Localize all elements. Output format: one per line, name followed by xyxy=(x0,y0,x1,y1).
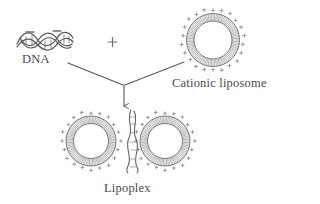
lipid-tail xyxy=(162,158,163,165)
lipid-tail xyxy=(221,57,224,64)
plus-charge-icon xyxy=(98,167,101,170)
plus-charge-icon xyxy=(212,9,215,12)
plus-charge-icon xyxy=(117,131,120,134)
lipid-tail xyxy=(92,158,93,165)
plus-charge-icon xyxy=(180,43,183,46)
plus-charge-icon xyxy=(182,34,185,37)
plus-charge-icon xyxy=(90,112,93,115)
lipid-tail xyxy=(221,16,224,23)
lipid-tail xyxy=(163,116,164,123)
lipid-tail xyxy=(215,14,216,21)
lipid-tail xyxy=(166,116,167,123)
plus-charge-icon xyxy=(164,169,167,172)
reaction-arrows xyxy=(68,62,184,106)
lipid-tail xyxy=(68,131,75,134)
plus-charge-icon xyxy=(155,166,158,169)
lipid-tail xyxy=(108,143,115,144)
lipid-tail xyxy=(162,116,163,123)
plus-charge-icon xyxy=(140,157,143,160)
plus-charge-icon xyxy=(135,130,138,133)
plus-charge-icon xyxy=(90,169,93,172)
plus-charge-icon xyxy=(172,112,175,115)
lipid-tail xyxy=(81,118,84,125)
lipid-tail xyxy=(189,48,196,51)
plus-charge-icon xyxy=(119,140,122,143)
lipid-tail xyxy=(230,28,237,31)
plus-charge-icon xyxy=(66,157,69,160)
lipid-tail xyxy=(201,57,204,64)
lipid-tail xyxy=(107,148,114,151)
plus-charge-icon xyxy=(189,58,192,61)
lipid-tail xyxy=(142,148,149,151)
lipid-tail xyxy=(107,131,114,134)
plus-charge-icon xyxy=(203,8,206,11)
lipid-tail xyxy=(208,59,209,66)
plus-charge-icon xyxy=(164,112,167,115)
lipid-tail xyxy=(140,143,147,144)
plus-charge-icon xyxy=(181,164,184,167)
plus-charge-icon xyxy=(81,166,84,169)
plus-charge-icon xyxy=(147,163,150,166)
plus-charge-icon xyxy=(241,43,244,46)
plus-charge-icon xyxy=(243,34,246,37)
lipoplex-liposome-left xyxy=(61,111,123,172)
lipid-tail xyxy=(93,158,94,165)
lipid-tail xyxy=(163,158,164,165)
plus-charge-icon xyxy=(113,157,116,160)
lipid-tail xyxy=(232,42,239,43)
lipid-tail xyxy=(217,14,218,21)
lipid-tail xyxy=(92,116,93,123)
lipid-tail xyxy=(142,131,149,134)
plus-charge-icon xyxy=(186,123,189,126)
lipid-tail xyxy=(166,158,167,165)
lipid-tail xyxy=(181,148,188,151)
plus-charge-icon xyxy=(61,130,64,133)
plus-charge-icon xyxy=(193,140,196,143)
plus-charge-icon xyxy=(183,26,186,29)
plus-charge-icon xyxy=(98,112,101,115)
liposome-inner-leaflet xyxy=(194,21,232,59)
plus-charge-icon xyxy=(203,68,206,71)
lipid-tail xyxy=(208,14,209,21)
lipid-tail xyxy=(155,157,158,164)
liposome-positive-charges xyxy=(135,111,197,172)
bound-dna-strand xyxy=(127,110,138,173)
lipoplex-liposome-right xyxy=(135,111,197,172)
lipid-tail xyxy=(172,118,175,125)
plus-charge-icon xyxy=(212,68,215,71)
lipid-tail xyxy=(140,139,147,140)
plus-charge-icon xyxy=(107,164,110,167)
lipid-tail xyxy=(66,142,73,143)
lipid-tail xyxy=(215,59,216,66)
lipid-tail xyxy=(187,37,194,38)
plus-charge-icon xyxy=(190,148,193,151)
lipid-tail xyxy=(167,158,168,165)
plus-operator-icon xyxy=(108,38,117,47)
lipid-tail xyxy=(181,131,188,134)
lipid-tail xyxy=(182,139,189,140)
plus-charge-icon xyxy=(172,167,175,170)
plus-charge-icon xyxy=(107,116,110,119)
lipid-tail xyxy=(201,16,204,23)
lipid-tail xyxy=(189,28,196,31)
plus-charge-icon xyxy=(187,157,190,160)
lipid-tail xyxy=(98,157,101,164)
lipid-tail xyxy=(210,59,211,66)
lipoplex-label: Lipoplex xyxy=(104,181,151,196)
lipid-tail xyxy=(88,158,89,165)
lipid-tail xyxy=(140,142,147,143)
plus-charge-icon xyxy=(181,116,184,119)
plus-charge-icon xyxy=(229,12,232,15)
lipid-tail xyxy=(230,48,237,51)
lipid-tail xyxy=(108,138,115,139)
plus-charge-icon xyxy=(228,64,231,67)
plus-charge-icon xyxy=(195,13,198,16)
plus-charge-icon xyxy=(141,123,144,126)
plus-charge-icon xyxy=(183,51,186,54)
liposome-inner-leaflet xyxy=(148,124,183,159)
plus-charge-icon xyxy=(112,123,115,126)
plus-charge-icon xyxy=(240,51,243,54)
lipid-tail xyxy=(89,158,90,165)
lipid-tail xyxy=(93,116,94,123)
plus-charge-icon xyxy=(236,60,239,63)
